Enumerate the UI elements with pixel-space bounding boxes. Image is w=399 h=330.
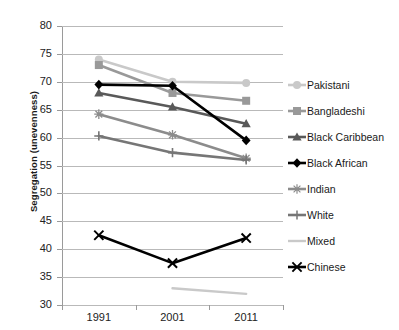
legend-item-black-african[interactable]: Black African xyxy=(288,150,398,176)
legend-marker-plus-icon xyxy=(288,206,306,224)
legend-item-mixed[interactable]: Mixed xyxy=(288,228,398,254)
legend-label: Bangladeshi xyxy=(307,106,365,117)
legend-label: White xyxy=(307,210,334,221)
legend-marker-triangle-icon xyxy=(288,128,306,146)
legend-item-chinese[interactable]: Chinese xyxy=(288,254,398,280)
legend-item-indian[interactable]: Indian xyxy=(288,176,398,202)
legend-marker-square-icon xyxy=(288,102,306,120)
legend-marker-circle-icon xyxy=(288,76,306,94)
legend-label: Black Caribbean xyxy=(307,132,384,143)
legend-marker-diamond-icon xyxy=(288,154,306,172)
legend-marker-asterisk-icon xyxy=(288,180,306,198)
legend-item-bangladeshi[interactable]: Bangladeshi xyxy=(288,98,398,124)
legend-label: Indian xyxy=(307,184,336,195)
legend-label: Black African xyxy=(307,158,368,169)
legend-marker-none-icon xyxy=(288,232,306,250)
legend: PakistaniBangladeshiBlack CaribbeanBlack… xyxy=(288,72,398,280)
legend-label: Chinese xyxy=(307,262,346,273)
legend-item-white[interactable]: White xyxy=(288,202,398,228)
chart-container: Segregation (unevenness) 303540455055606… xyxy=(0,0,399,330)
legend-item-black-caribbean[interactable]: Black Caribbean xyxy=(288,124,398,150)
legend-label: Pakistani xyxy=(307,80,350,91)
series-mixed xyxy=(173,288,247,294)
series-chinese xyxy=(94,231,251,268)
legend-item-pakistani[interactable]: Pakistani xyxy=(288,72,398,98)
legend-label: Mixed xyxy=(307,236,335,247)
legend-marker-cross-icon xyxy=(288,258,306,276)
